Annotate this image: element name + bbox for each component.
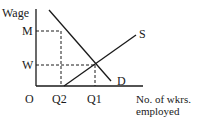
x-tick-q2: Q2 [52,93,67,105]
y-axis-label: Wage [2,7,29,19]
origin-label: O [25,93,34,105]
demand-label: D [117,75,126,87]
y-tick-w: W [22,59,33,71]
x-axis-label-line2: employed [136,105,179,117]
demand-curve [49,10,111,81]
supply-label: S [139,28,146,40]
x-axis-label-line1: No. of wkrs. [136,93,191,105]
x-tick-q1: Q1 [87,93,102,105]
y-tick-m: M [22,25,33,37]
